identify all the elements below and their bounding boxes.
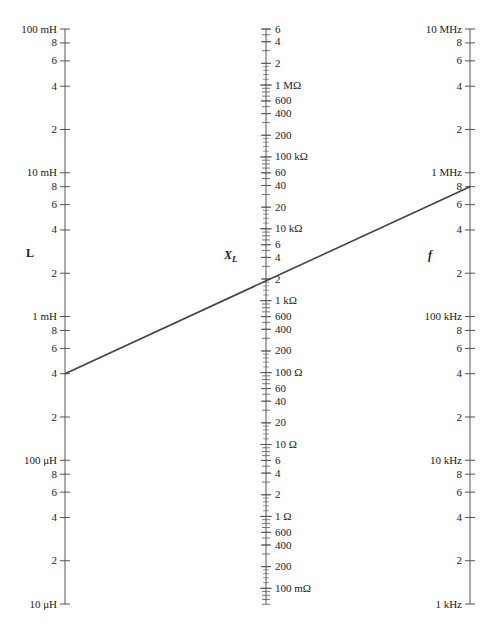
tick-label: 4 <box>457 367 463 379</box>
inductive-reactance-nomograph: 100 mH864210 mH86421 mH8642100 μH864210 … <box>0 0 498 624</box>
tick-label: 4 <box>52 80 58 92</box>
tick-label: 6 <box>457 486 463 498</box>
tick-label: 8 <box>52 324 58 336</box>
axis-XL: 6421 MΩ600400200100 kΩ60402010 kΩ6421 kΩ… <box>260 23 311 605</box>
tick-label: 1 kHz <box>435 598 462 610</box>
index-line <box>65 187 470 374</box>
tick-label: 100 kΩ <box>275 150 308 162</box>
tick-label: 4 <box>52 367 58 379</box>
tick-label: 4 <box>457 223 463 235</box>
tick-label: 1 mH <box>32 310 57 322</box>
axis-title-f: f <box>428 248 433 262</box>
tick-label: 4 <box>275 467 281 479</box>
tick-label: 6 <box>457 342 463 354</box>
tick-label: 2 <box>52 267 58 279</box>
axes-layer: 100 mH864210 mH86421 mH8642100 μH864210 … <box>21 23 475 610</box>
tick-label: 200 <box>275 344 292 356</box>
tick-label: 400 <box>275 539 292 551</box>
tick-label: 1 MHz <box>431 166 462 178</box>
axis-title-XL: XL <box>223 248 238 264</box>
tick-label: 1 Ω <box>275 510 291 522</box>
tick-label: 2 <box>457 123 463 135</box>
tick-label: 8 <box>457 468 463 480</box>
tick-label: 600 <box>275 94 292 106</box>
tick-label: 10 MHz <box>426 23 462 35</box>
tick-label: 6 <box>457 198 463 210</box>
tick-label: 400 <box>275 323 292 335</box>
tick-label: 4 <box>457 80 463 92</box>
tick-label: 8 <box>52 468 58 480</box>
tick-label: 6 <box>275 454 281 466</box>
tick-label: 4 <box>457 511 463 523</box>
tick-label: 2 <box>457 411 463 423</box>
tick-label: 10 kHz <box>430 454 462 466</box>
tick-label: 8 <box>52 180 58 192</box>
axis-L: 100 mH864210 mH86421 mH8642100 μH864210 … <box>21 23 70 610</box>
tick-label: 40 <box>275 179 287 191</box>
tick-label: 6 <box>275 23 281 35</box>
axis-f: 10 MHz86421 MHz8642100 kHz864210 kHz8642… <box>424 23 475 610</box>
tick-label: 10 μH <box>29 598 57 610</box>
tick-label: 6 <box>52 342 58 354</box>
tick-label: 4 <box>52 223 58 235</box>
tick-label: 600 <box>275 526 292 538</box>
tick-label: 2 <box>52 411 58 423</box>
tick-label: 2 <box>457 267 463 279</box>
index-line-layer <box>65 187 470 374</box>
tick-label: 2 <box>275 488 281 500</box>
tick-label: 400 <box>275 107 292 119</box>
tick-label: 2 <box>52 554 58 566</box>
tick-label: 6 <box>52 54 58 66</box>
tick-label: 6 <box>275 238 281 250</box>
tick-label: 100 mΩ <box>275 582 311 594</box>
tick-label: 40 <box>275 395 287 407</box>
tick-label: 10 Ω <box>275 438 297 450</box>
tick-label: 60 <box>275 382 287 394</box>
axis-title-L: L <box>26 246 34 260</box>
tick-label: 60 <box>275 166 287 178</box>
tick-label: 4 <box>275 35 281 47</box>
tick-label: 100 μH <box>24 454 57 466</box>
tick-label: 1 MΩ <box>275 79 301 91</box>
tick-label: 4 <box>52 511 58 523</box>
tick-label: 1 kΩ <box>275 294 297 306</box>
tick-label: 100 mH <box>21 23 57 35</box>
tick-label: 2 <box>52 123 58 135</box>
tick-label: 2 <box>457 554 463 566</box>
tick-label: 6 <box>457 54 463 66</box>
tick-label: 10 mH <box>27 166 57 178</box>
tick-label: 6 <box>52 198 58 210</box>
tick-label: 8 <box>52 36 58 48</box>
tick-label: 2 <box>275 57 281 69</box>
tick-label: 4 <box>275 251 281 263</box>
tick-label: 600 <box>275 310 292 322</box>
tick-label: 200 <box>275 560 292 572</box>
tick-label: 8 <box>457 324 463 336</box>
tick-label: 20 <box>275 201 287 213</box>
tick-label: 8 <box>457 36 463 48</box>
tick-label: 100 kHz <box>424 310 462 322</box>
tick-label: 20 <box>275 416 287 428</box>
tick-label: 10 kΩ <box>275 222 302 234</box>
tick-label: 100 Ω <box>275 366 302 378</box>
tick-label: 200 <box>275 129 292 141</box>
tick-label: 6 <box>52 486 58 498</box>
